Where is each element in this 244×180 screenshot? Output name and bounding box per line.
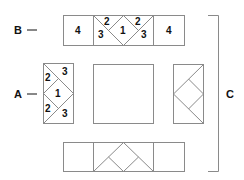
a-top-right: 3 xyxy=(62,66,68,77)
a-top-left: 2 xyxy=(45,72,51,83)
quilt-layout-diagram: B A 4 2 3 1 2 3 4 2 3 1 2 3 xyxy=(0,0,244,180)
a-middle: 1 xyxy=(55,88,61,99)
b-right-square-number: 4 xyxy=(166,25,172,36)
b-center-middle: 1 xyxy=(120,25,126,36)
b-left-square-number: 4 xyxy=(75,25,81,36)
b-center-bottom-left: 3 xyxy=(98,29,104,40)
b-center-top-right: 2 xyxy=(135,16,141,27)
label-c: C xyxy=(226,88,234,100)
a-bottom-right: 3 xyxy=(62,108,68,119)
b-center-bottom-right: 3 xyxy=(141,29,147,40)
right-block xyxy=(174,65,204,124)
label-a: A xyxy=(14,88,22,100)
b-center-top-left: 2 xyxy=(104,16,110,27)
a-bottom-left: 2 xyxy=(45,103,51,114)
label-b: B xyxy=(14,24,22,36)
left-block-a: 2 3 1 2 3 xyxy=(44,64,74,124)
bracket-c xyxy=(208,16,219,172)
center-square xyxy=(94,65,154,124)
top-strip-b: 4 2 3 1 2 3 4 xyxy=(64,16,185,46)
bottom-strip xyxy=(64,143,185,172)
